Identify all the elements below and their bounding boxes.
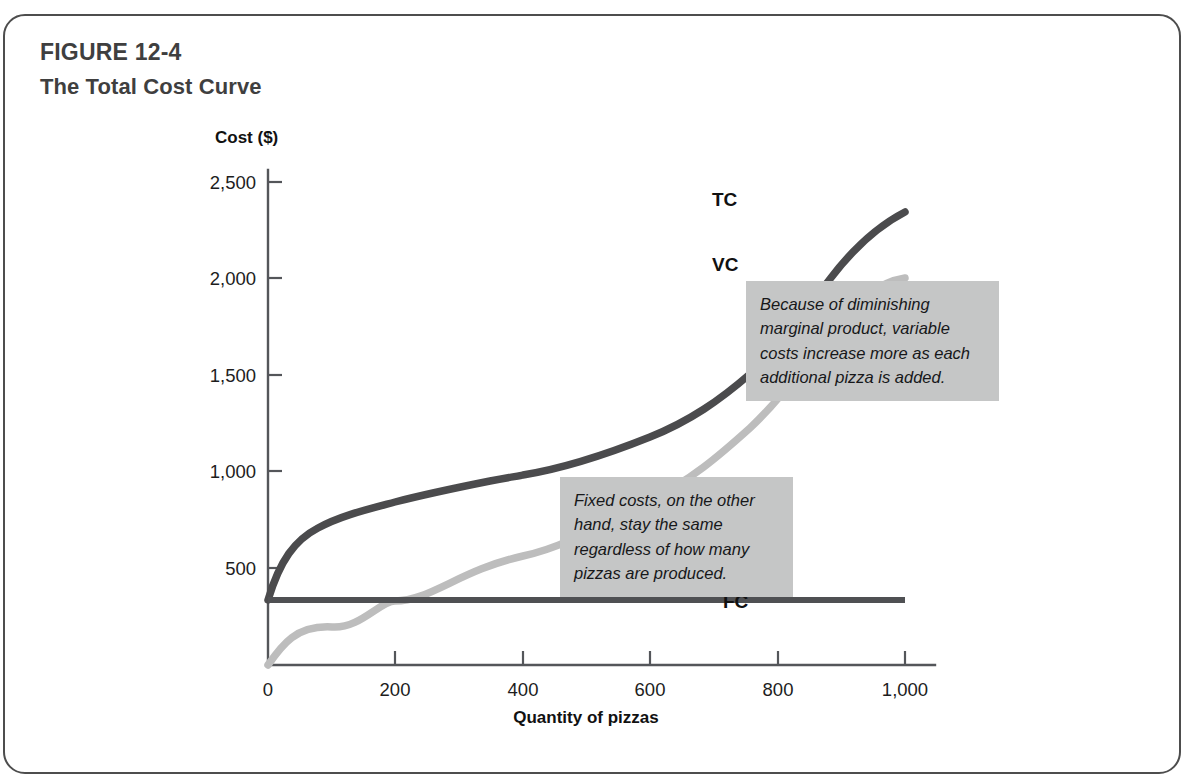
callout-fixed-costs: Fixed costs, on the other hand, stay the… (560, 477, 793, 597)
figure-frame: FIGURE 12-4 The Total Cost Curve (3, 14, 1181, 774)
figure-title: The Total Cost Curve (40, 73, 640, 102)
figure-number: FIGURE 12-4 (40, 38, 640, 67)
callout-variable-costs: Because of diminishing marginal product,… (746, 281, 999, 401)
figure-header: FIGURE 12-4 The Total Cost Curve (40, 38, 640, 101)
